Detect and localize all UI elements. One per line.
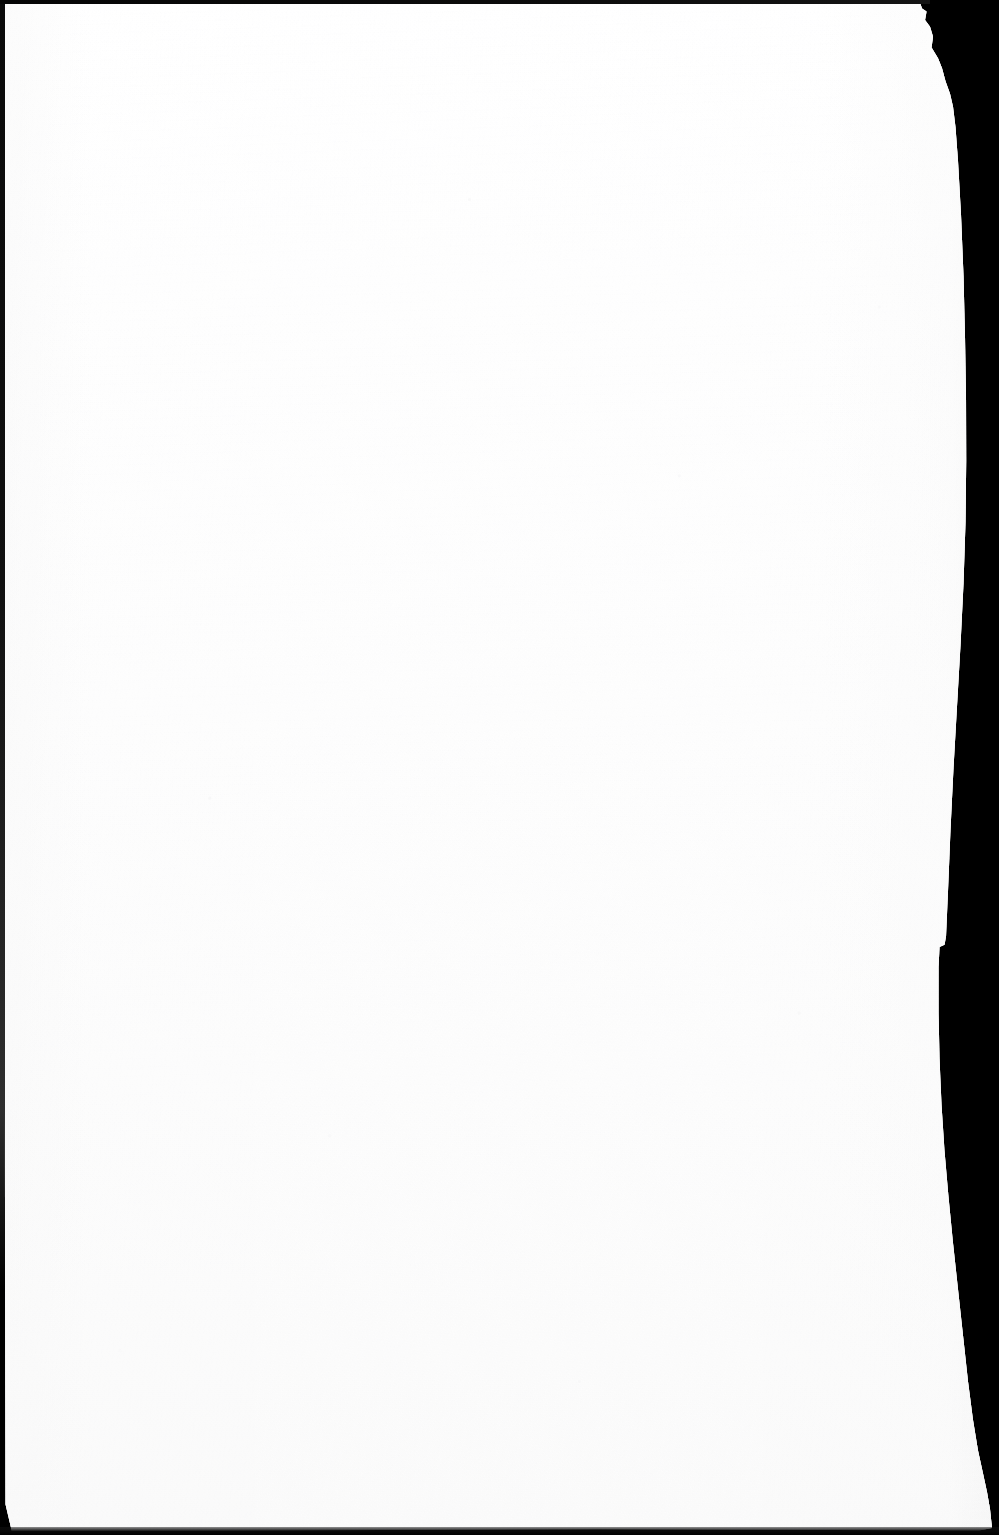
- scan-border-top: [0, 0, 930, 4]
- page-sheet: [0, 0, 999, 1535]
- scanned-page-viewport: [0, 0, 999, 1535]
- scan-border-bottom: [0, 1527, 999, 1535]
- page-content-area: [60, 90, 909, 1445]
- scan-border-left: [0, 0, 5, 1290]
